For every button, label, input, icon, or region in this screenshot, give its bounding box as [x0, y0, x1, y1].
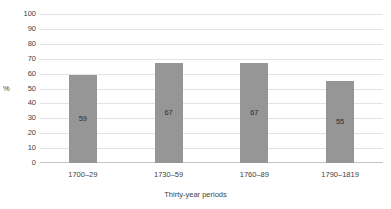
bar[interactable]: 67: [155, 63, 183, 163]
bar-value-label: 67: [155, 109, 183, 117]
y-axis-tick-label: 0: [12, 159, 36, 167]
gridline: [40, 44, 383, 45]
y-axis-tick-label: 20: [12, 129, 36, 137]
y-axis-tick-label: 100: [12, 10, 36, 18]
y-axis-tick-label: 70: [12, 55, 36, 63]
y-axis-tick-label: 40: [12, 99, 36, 107]
bar-chart: % 59676755 Thirty-year periods 100908070…: [0, 0, 391, 209]
x-axis-tick-label: 1790–1819: [290, 170, 390, 179]
y-axis-tick-label: 30: [12, 114, 36, 122]
x-axis-title: Thirty-year periods: [0, 190, 391, 199]
bar-value-label: 67: [240, 109, 268, 117]
y-axis-tick-label: 90: [12, 25, 36, 33]
y-axis-tick-label: 10: [12, 144, 36, 152]
y-axis-tick-label: 80: [12, 40, 36, 48]
bar-value-label: 55: [326, 118, 354, 126]
bar[interactable]: 67: [240, 63, 268, 163]
chart-title: [0, 0, 391, 1]
bar-value-label: 59: [69, 115, 97, 123]
gridline: [40, 59, 383, 60]
gridline: [40, 14, 383, 15]
plot-area: 59676755: [40, 14, 383, 163]
bar[interactable]: 55: [326, 81, 354, 163]
y-axis-tick-label: 50: [12, 85, 36, 93]
y-axis-tick-label: 60: [12, 70, 36, 78]
bar[interactable]: 59: [69, 75, 97, 163]
gridline: [40, 29, 383, 30]
